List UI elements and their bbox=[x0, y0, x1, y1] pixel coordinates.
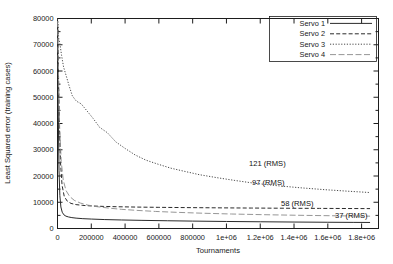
chart-figure: 0100002000030000400005000060000700008000… bbox=[0, 0, 393, 264]
x-axis-title: Tournaments bbox=[196, 246, 240, 255]
least-squared-error-line-chart: 0100002000030000400005000060000700008000… bbox=[0, 0, 393, 264]
x-tick-label: 800000 bbox=[180, 233, 205, 242]
plot-frame bbox=[58, 19, 379, 229]
annotation-121-rms: 121 (RMS) bbox=[249, 159, 286, 168]
x-tick-label: 1.6e+06 bbox=[314, 233, 341, 242]
x-tick-label: 1.8e+06 bbox=[348, 233, 375, 242]
y-axis-title: Least Squared error (training cases) bbox=[3, 62, 12, 184]
legend: Servo 1Servo 2Servo 3Servo 4 bbox=[270, 17, 377, 62]
y-tick-label: 10000 bbox=[33, 198, 54, 207]
y-tick-label: 0 bbox=[49, 224, 53, 233]
legend-label-servo-1: Servo 1 bbox=[300, 19, 325, 28]
annotation-37-rms: 37 (RMS) bbox=[335, 211, 368, 220]
y-tick-label: 20000 bbox=[33, 172, 54, 181]
x-tick-label: 1.4e+06 bbox=[281, 233, 308, 242]
x-tick-label: 1e+06 bbox=[216, 233, 237, 242]
y-tick-label: 40000 bbox=[33, 119, 54, 128]
y-tick-label: 70000 bbox=[33, 40, 54, 49]
x-tick-label: 400000 bbox=[113, 233, 138, 242]
curve-annotations: 121 (RMS)97 (RMS)58 (RMS)37 (RMS) bbox=[249, 159, 368, 220]
x-tick-label: 200000 bbox=[79, 233, 104, 242]
data-series-group bbox=[58, 19, 371, 223]
legend-label-servo-4: Servo 4 bbox=[300, 50, 325, 59]
y-tick-label: 80000 bbox=[33, 14, 54, 23]
y-tick-label: 30000 bbox=[33, 145, 54, 154]
y-axis-tick-labels: 0100002000030000400005000060000700008000… bbox=[33, 14, 54, 233]
legend-label-servo-3: Servo 3 bbox=[300, 40, 325, 49]
y-axis-ticks bbox=[58, 19, 379, 229]
y-tick-label: 60000 bbox=[33, 67, 54, 76]
legend-label-servo-2: Servo 2 bbox=[300, 29, 325, 38]
y-tick-label: 50000 bbox=[33, 93, 54, 102]
annotation-58-rms: 58 (RMS) bbox=[281, 199, 314, 208]
x-axis-tick-labels: 02000004000006000008000001e+061.2e+061.4… bbox=[55, 233, 375, 242]
annotation-97-rms: 97 (RMS) bbox=[252, 178, 285, 187]
x-tick-label: 600000 bbox=[147, 233, 172, 242]
x-tick-label: 0 bbox=[55, 233, 59, 242]
x-tick-label: 1.2e+06 bbox=[247, 233, 274, 242]
